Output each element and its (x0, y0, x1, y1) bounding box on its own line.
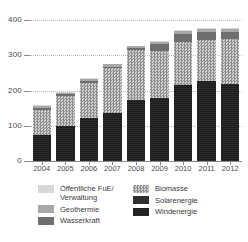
bar-segment-biomasse (80, 83, 98, 118)
x-axis-label-2008: 2008 (124, 164, 148, 173)
stacked-bar-chart: 0100200300400 20042005200620072008200920… (0, 0, 248, 242)
legend-item-biomasse[interactable]: Biomasse (133, 184, 243, 193)
bar-2009 (150, 41, 168, 161)
bar-segment-windenergie (127, 100, 145, 161)
bar-group (30, 20, 242, 161)
legend-item-geothermie[interactable]: Geothermie (38, 205, 130, 214)
legend-item-ffentliche-fue[interactable]: Öffentliche FuE/Verwaltung (38, 184, 130, 202)
plot-canvas (30, 20, 242, 161)
bar-segment-windenergie (174, 85, 192, 161)
legend-column-left: Öffentliche FuE/VerwaltungGeothermieWass… (38, 184, 130, 228)
x-axis-label-2011: 2011 (195, 164, 219, 173)
bar-segment-windenergie (33, 135, 51, 161)
bar-2004 (33, 105, 51, 161)
y-axis-tick-label: 200 (0, 86, 22, 95)
bar-segment-windenergie (56, 126, 74, 161)
legend-column-right: BiomasseSolarenergieWindenergie (133, 184, 243, 219)
y-axis-tick-mark (24, 20, 30, 21)
bar-2005 (56, 92, 74, 161)
legend-label: Geothermie (60, 205, 99, 214)
bar-segment-biomasse (174, 42, 192, 85)
bar-segment-biomasse (103, 68, 121, 113)
x-axis-label-2007: 2007 (101, 164, 125, 173)
chart-legend: Öffentliche FuE/VerwaltungGeothermieWass… (0, 184, 248, 234)
y-axis-tick-mark (24, 161, 30, 162)
bar-segment-biomasse (221, 39, 239, 83)
bar-segment-windenergie (80, 118, 98, 161)
y-axis-tick-label: 0 (0, 156, 22, 165)
bar-segment-wasserkraft (221, 32, 239, 39)
legend-swatch-icon (38, 217, 54, 225)
legend-label: Öffentliche FuE/Verwaltung (60, 184, 114, 202)
bar-segment-windenergie (197, 81, 215, 161)
y-axis-tick-label: 100 (0, 121, 22, 130)
bar-segment-wasserkraft (150, 44, 168, 51)
y-axis-tick-mark (24, 91, 30, 92)
bar-segment-biomasse (150, 51, 168, 97)
bar-segment-windenergie (221, 84, 239, 161)
bar-segment-windenergie (103, 113, 121, 161)
x-axis-label-2009: 2009 (148, 164, 172, 173)
bar-2008 (127, 46, 145, 161)
legend-swatch-icon (38, 205, 54, 213)
x-axis-label-2012: 2012 (218, 164, 242, 173)
y-axis-tick-label: 400 (0, 15, 22, 24)
plot-area: 0100200300400 (0, 0, 248, 172)
legend-label: Wasserkraft (60, 216, 100, 225)
y-axis-tick-label: 300 (0, 50, 22, 59)
legend-label: Solarenergie (155, 196, 198, 205)
legend-label: Windenergie (155, 207, 197, 216)
bar-segment-wasserkraft (174, 34, 192, 41)
bar-segment-biomasse (33, 110, 51, 135)
y-axis-tick-mark (24, 55, 30, 56)
bar-2012 (221, 28, 239, 161)
legend-swatch-icon (133, 185, 149, 193)
x-axis-labels: 200420052006200720082009201020112012 (30, 164, 242, 176)
bar-segment-biomasse (197, 40, 215, 81)
bar-segment-biomasse (127, 50, 145, 100)
bar-segment-wasserkraft (197, 32, 215, 39)
x-axis-label-2010: 2010 (171, 164, 195, 173)
legend-swatch-icon (38, 185, 54, 193)
legend-swatch-icon (133, 196, 149, 204)
legend-item-solarenergie[interactable]: Solarenergie (133, 196, 243, 205)
legend-label: Biomasse (155, 184, 188, 193)
bar-2011 (197, 28, 215, 161)
legend-swatch-icon (133, 208, 149, 216)
bar-2007 (103, 64, 121, 161)
legend-item-wasserkraft[interactable]: Wasserkraft (38, 216, 130, 225)
bar-segment-biomasse (56, 96, 74, 126)
legend-item-windenergie[interactable]: Windenergie (133, 207, 243, 216)
bar-2010 (174, 30, 192, 161)
x-axis-label-2005: 2005 (54, 164, 78, 173)
x-axis-label-2004: 2004 (30, 164, 54, 173)
y-axis-tick-mark (24, 126, 30, 127)
x-axis-label-2006: 2006 (77, 164, 101, 173)
bar-2006 (80, 78, 98, 161)
bar-segment-windenergie (150, 98, 168, 161)
